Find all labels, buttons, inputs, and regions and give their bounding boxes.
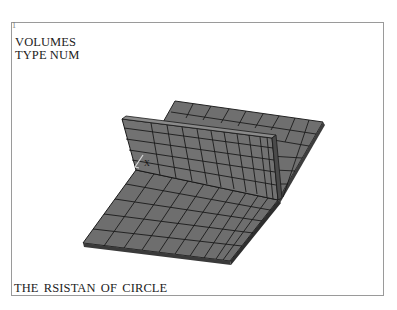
axis-x-label: X [144, 159, 150, 168]
fe-model-view: X [0, 0, 397, 310]
